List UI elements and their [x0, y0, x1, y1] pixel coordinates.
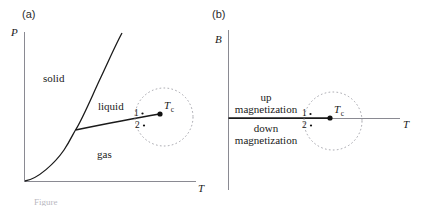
region-label-down-magnetization-line2: magnetization [235, 134, 298, 146]
panel-b-critical-point-marker [327, 115, 332, 120]
panel-a-critical-point-label: Tc [164, 99, 175, 114]
panel-a: (a) P T solid liquid gas [10, 8, 205, 194]
sublimation-curve [25, 130, 76, 181]
region-label-up-magnetization-line1: up [261, 91, 273, 103]
panel-b-point-2-dot [310, 124, 312, 126]
panel-a-x-axis-label: T [198, 182, 205, 194]
panel-a-point-2-label: 2 [135, 120, 140, 130]
panel-b: (b) B T up magnetization down magnetizat… [212, 8, 410, 190]
panel-b-critical-point-label: Tc [334, 103, 345, 118]
region-label-solid: solid [43, 72, 65, 84]
panel-b-x-axis-label: T [403, 118, 410, 130]
panel-a-point-1-label: 1 [134, 108, 139, 118]
panel-b-point-1-dot [309, 113, 311, 115]
vaporization-curve [76, 114, 160, 130]
panel-a-critical-point-marker [157, 111, 162, 116]
figure-root: (a) P T solid liquid gas [0, 0, 424, 206]
panel-a-point-1-dot [141, 112, 143, 114]
fusion-curve [76, 33, 123, 130]
panel-b-point-1-label: 1 [302, 108, 307, 118]
panel-a-letter: (a) [22, 8, 35, 20]
panel-b-y-axis-label: B [215, 33, 222, 45]
region-label-gas: gas [97, 148, 112, 160]
panel-b-point-2-label: 2 [302, 120, 307, 130]
region-label-down-magnetization-line1: down [254, 122, 279, 134]
region-label-up-magnetization-line2: magnetization [235, 103, 298, 115]
panel-a-y-axis-label: P [10, 26, 18, 38]
figure-caption: Figure [34, 197, 58, 206]
panel-a-point-2-dot [143, 124, 145, 126]
figure-svg: (a) P T solid liquid gas [0, 0, 424, 206]
region-label-liquid: liquid [98, 100, 124, 112]
panel-b-magnifier-circle [304, 92, 362, 150]
panel-b-letter: (b) [212, 8, 225, 20]
